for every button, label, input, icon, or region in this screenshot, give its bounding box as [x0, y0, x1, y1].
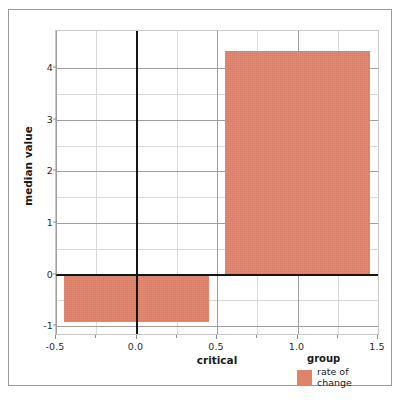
y-tick-mark [53, 118, 57, 119]
y-tick-label: -1 [27, 320, 53, 331]
y-tick-mark [53, 170, 57, 171]
y-tick-label: 0 [27, 268, 53, 279]
x-tick-mark [55, 335, 56, 339]
x-axis-tick-labels: -0.50.00.51.01.5 [55, 335, 379, 355]
legend-entries: rate of change [297, 367, 389, 388]
x-tick-mark [377, 335, 378, 339]
y-tick-mark [53, 325, 57, 326]
y-tick-mark [53, 222, 57, 223]
x-minor-tick-mark [176, 335, 177, 338]
x-tick-label: 0.0 [116, 341, 156, 352]
gridline [378, 31, 379, 334]
zero-reference-line [56, 274, 378, 276]
y-axis-title: median value [22, 111, 34, 221]
x-tick-label: 1.5 [357, 341, 397, 352]
chart-figure: -101234 -0.50.00.51.01.5 critical median… [8, 9, 392, 386]
x-tick-mark [297, 335, 298, 339]
plot-panel [55, 30, 379, 335]
y-tick-label: 4 [27, 62, 53, 73]
legend-entry[interactable]: rate of change [297, 367, 389, 388]
legend: group rate of change [297, 353, 389, 388]
legend-title: group [307, 353, 389, 364]
x-minor-tick-mark [256, 335, 257, 338]
legend-entry-label: rate of change [317, 367, 352, 388]
x-minor-tick-mark [95, 335, 96, 338]
x-tick-mark [136, 335, 137, 339]
legend-swatch-icon [297, 370, 312, 385]
y-tick-mark [53, 67, 57, 68]
x-tick-mark [216, 335, 217, 339]
gridline [217, 31, 218, 334]
x-tick-label: 1.0 [277, 341, 317, 352]
y-tick-mark [53, 273, 57, 274]
gridline [56, 31, 57, 334]
x-minor-tick-mark [337, 335, 338, 338]
vertical-reference-line [136, 31, 138, 334]
x-tick-label: 0.5 [196, 341, 236, 352]
x-tick-label: -0.5 [35, 341, 75, 352]
bar[interactable] [225, 51, 370, 275]
